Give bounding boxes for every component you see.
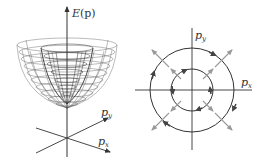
left-py-label: py [101, 106, 113, 120]
paraboloid-panel: E(p) py px [17, 7, 117, 157]
energy-axis-label: E(p) [71, 7, 96, 20]
contour-panel: py px [135, 28, 252, 150]
left-px-label: px [98, 135, 109, 149]
right-py-label: py [195, 29, 207, 43]
figure: E(p) py px [0, 0, 264, 163]
right-px-label: px [241, 76, 252, 90]
